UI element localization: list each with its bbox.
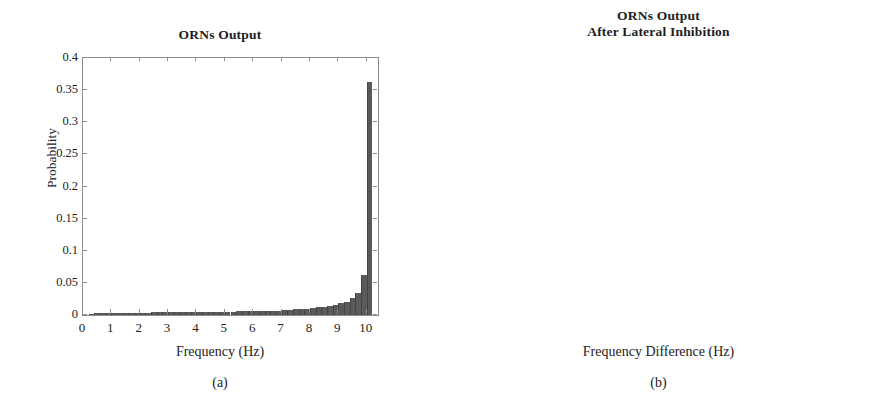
- panel-a: ORNs Output Probability 00.050.10.150.20…: [0, 0, 440, 409]
- panel-a-title: ORNs Output: [0, 27, 440, 43]
- y-tick-label: 0.2: [62, 179, 78, 192]
- y-tick-label: 0.3: [62, 115, 78, 128]
- y-tick-mark-right: [373, 57, 377, 58]
- x-tick-mark: [82, 309, 83, 314]
- x-tick-label: 5: [221, 321, 228, 334]
- x-tick-mark-top: [167, 57, 168, 61]
- x-tick-mark: [224, 309, 225, 314]
- y-tick-mark: [82, 153, 87, 154]
- y-tick-mark-right: [373, 314, 377, 315]
- x-tick-mark: [337, 309, 338, 314]
- x-tick-label: 7: [277, 321, 284, 334]
- x-tick-label: 0: [79, 321, 86, 334]
- x-tick-mark: [110, 309, 111, 314]
- panel-b-caption: (b): [440, 375, 877, 391]
- panel-a-bars: [83, 58, 378, 315]
- x-tick-mark-top: [82, 57, 83, 61]
- y-tick-label: 0.05: [56, 276, 78, 289]
- y-tick-mark: [82, 89, 87, 90]
- y-tick-mark-right: [373, 186, 377, 187]
- panel-b-x-axis-label: Frequency Difference (Hz): [440, 344, 877, 360]
- x-tick-mark: [281, 309, 282, 314]
- y-tick-label: 0.1: [62, 244, 78, 257]
- x-tick-mark-top: [281, 57, 282, 61]
- x-tick-mark-top: [252, 57, 253, 61]
- y-tick-mark-right: [373, 218, 377, 219]
- x-tick-label: 3: [164, 321, 171, 334]
- x-tick-label: 8: [306, 321, 313, 334]
- y-tick-mark: [82, 218, 87, 219]
- panel-b-title: ORNs Output After Lateral Inhibition: [440, 8, 877, 39]
- x-tick-mark: [195, 309, 196, 314]
- histogram-bar: [367, 82, 373, 315]
- y-tick-mark: [82, 250, 87, 251]
- x-tick-mark-top: [366, 57, 367, 61]
- x-tick-mark: [252, 309, 253, 314]
- x-tick-mark: [139, 309, 140, 314]
- x-tick-label: 10: [359, 321, 372, 334]
- panel-a-x-axis-label: Frequency (Hz): [0, 344, 440, 360]
- panel-b-title-line1: ORNs Output: [440, 8, 877, 24]
- x-tick-label: 2: [135, 321, 142, 334]
- y-tick-mark-right: [373, 121, 377, 122]
- y-tick-label: 0.35: [56, 83, 78, 96]
- y-tick-mark-right: [373, 282, 377, 283]
- panel-b-title-line2: After Lateral Inhibition: [440, 24, 877, 40]
- panel-b: ORNs Output After Lateral Inhibition Pro…: [440, 0, 877, 409]
- panel-a-caption: (a): [0, 375, 440, 391]
- x-tick-mark-top: [195, 57, 196, 61]
- y-tick-mark-right: [373, 250, 377, 251]
- panel-a-plot-area: [82, 57, 379, 316]
- x-tick-mark: [167, 309, 168, 314]
- figure-container: ORNs Output Probability 00.050.10.150.20…: [0, 0, 877, 409]
- x-tick-label: 1: [107, 321, 114, 334]
- x-tick-mark-top: [224, 57, 225, 61]
- x-tick-mark-top: [337, 57, 338, 61]
- y-tick-mark: [82, 314, 87, 315]
- y-tick-mark: [82, 186, 87, 187]
- y-tick-mark-right: [373, 89, 377, 90]
- x-tick-label: 6: [249, 321, 256, 334]
- x-tick-mark-top: [309, 57, 310, 61]
- x-tick-mark: [366, 309, 367, 314]
- y-tick-label: 0.15: [56, 211, 78, 224]
- y-tick-mark: [82, 282, 87, 283]
- x-tick-label: 4: [192, 321, 199, 334]
- x-tick-mark: [309, 309, 310, 314]
- x-tick-label: 9: [334, 321, 341, 334]
- y-tick-mark-right: [373, 153, 377, 154]
- x-tick-mark-top: [139, 57, 140, 61]
- x-tick-mark-top: [110, 57, 111, 61]
- y-tick-mark: [82, 121, 87, 122]
- y-tick-label: 0.4: [62, 51, 78, 64]
- y-tick-label: 0.25: [56, 147, 78, 160]
- y-tick-label: 0: [72, 308, 78, 321]
